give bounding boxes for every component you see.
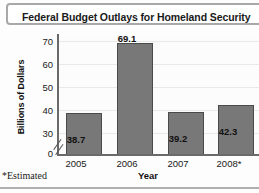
bar-value-2008: 42.3 (210, 126, 246, 137)
y-tick-label-30: 30 (33, 128, 53, 139)
x-axis-line (57, 154, 259, 156)
y-tick-label-50: 50 (33, 82, 53, 93)
y-tick-label-70: 70 (33, 36, 53, 47)
bar-value-2007: 39.2 (160, 133, 196, 144)
x-axis-title: Year (58, 170, 238, 181)
bar-2006 (117, 43, 153, 155)
y-axis-title: Billions of Dollars (16, 49, 26, 145)
x-tick-label-2005: 2005 (56, 158, 96, 169)
bar-value-2006: 69.1 (109, 33, 145, 44)
x-tick-label-2006: 2006 (107, 158, 147, 169)
chart-figure: Federal Budget Outlays for Homeland Secu… (0, 0, 259, 193)
gridline-60 (58, 64, 259, 65)
gridline-70 (58, 41, 259, 42)
page-title: Federal Budget Outlays for Homeland Secu… (22, 11, 259, 23)
bottom-divider (0, 187, 259, 189)
x-tick-label-2008: 2008* (208, 158, 250, 169)
bar-value-2005: 38.7 (58, 134, 94, 145)
gridline-50 (58, 87, 259, 88)
y-tick-label-40: 40 (33, 105, 53, 116)
y-tick-label-0: 0 (33, 148, 53, 159)
x-tick-label-2007: 2007 (158, 158, 198, 169)
y-axis-ticks: 70 60 50 40 30 0 (31, 0, 53, 193)
footnote-estimated: *Estimated (2, 170, 47, 181)
y-tick-label-60: 60 (33, 59, 53, 70)
